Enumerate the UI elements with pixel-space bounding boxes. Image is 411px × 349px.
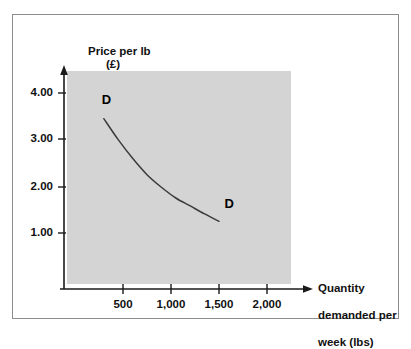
demand-curve-label-top: D (102, 92, 111, 107)
x-tick-label-2000: 2,000 (245, 298, 289, 310)
y-tick-label-1: 1.00 (17, 226, 53, 238)
figure-frame: Price per lb (£) Quantity demanded per w… (12, 14, 399, 319)
x-tick-label-500: 500 (101, 298, 145, 310)
chart-canvas: Price per lb (£) Quantity demanded per w… (13, 15, 400, 320)
y-axis-title: Price per lb (£) (88, 31, 151, 85)
clipped-caption-text (30, 0, 390, 6)
x-axis-title: Quantity demanded per week (lbs) (318, 268, 402, 349)
x-axis-title-line-3: week (lbs) (318, 336, 374, 348)
y-tick-label-4: 4.00 (17, 86, 53, 98)
demand-curve-label-bottom: D (225, 196, 234, 211)
y-axis-title-line-2: (£) (88, 58, 151, 72)
plot-area-background (67, 71, 291, 284)
x-axis-title-line-1: Quantity (318, 282, 365, 294)
y-tick-label-2: 2.00 (17, 180, 53, 192)
x-tick-label-1000: 1,000 (149, 298, 193, 310)
y-tick-label-3: 3.00 (17, 132, 53, 144)
x-axis-title-line-2: demanded per (318, 309, 397, 321)
y-axis-arrow-icon (60, 65, 68, 75)
y-axis-title-line-1: Price per lb (88, 45, 151, 57)
x-tick-label-1500: 1,500 (197, 298, 241, 310)
x-axis-arrow-icon (303, 285, 313, 293)
